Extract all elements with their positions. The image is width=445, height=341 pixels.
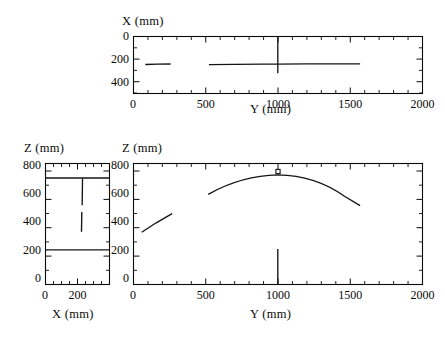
panel-left-xlabel: X (mm) [52, 307, 94, 322]
panel-left-xtick-200: 200 [69, 288, 87, 303]
panel-right-xtick-1000: 1000 [266, 288, 290, 303]
panel-top-ytick-400: 400 [111, 75, 129, 90]
panel-left-x-ticks [46, 164, 110, 285]
panel-top-ytick-200: 200 [111, 52, 129, 67]
panel-top-xtick-1000: 1000 [266, 97, 290, 112]
panel-right-z-vs-y: Z (mm) Y (mm) 0 200 400 600 800 0 500 10… [133, 163, 423, 285]
panel-left-ytick-0: 0 [35, 271, 41, 286]
panel-top-xtick-2000: 2000 [411, 97, 435, 112]
panel-top-data [145, 37, 360, 74]
panel-right-xtick-500: 500 [197, 288, 215, 303]
panel-right-xlabel: Y (mm) [250, 307, 291, 322]
panel-right-ytick-0: 0 [123, 271, 129, 286]
panel-left-plot-area [45, 163, 110, 285]
panel-left-y-ticks [46, 171, 110, 285]
panel-top-ylabel: X (mm) [122, 14, 164, 29]
three-panel-projection-figure: X (mm) Y (mm) 0 200 400 0 500 1000 1500 … [0, 0, 445, 341]
panel-right-xtick-2000: 2000 [411, 288, 435, 303]
panel-left-ytick-600: 600 [23, 186, 41, 201]
panel-right-ylabel: Z (mm) [122, 141, 162, 156]
open-square-marker [276, 169, 280, 173]
panel-top-x-vs-y: X (mm) Y (mm) 0 200 400 0 500 1000 1500 … [133, 36, 423, 94]
panel-right-ytick-600: 600 [111, 186, 129, 201]
panel-left-data [46, 178, 109, 250]
panel-right-ytick-200: 200 [111, 243, 129, 258]
panel-top-xtick-500: 500 [197, 97, 215, 112]
panel-top-xtick-1500: 1500 [338, 97, 362, 112]
panel-left-ytick-800: 800 [23, 158, 41, 173]
panel-top-ytick-0: 0 [123, 29, 129, 44]
panel-right-xtick-1500: 1500 [338, 288, 362, 303]
panel-left-xtick-0: 0 [42, 288, 48, 303]
panel-top-plot-area [133, 36, 423, 94]
panel-right-xtick-0: 0 [130, 288, 136, 303]
panel-left-z-vs-x: Z (mm) 0 200 400 600 800 0 200 X (mm) [45, 163, 110, 285]
panel-left-ytick-200: 200 [23, 243, 41, 258]
panel-left-ytick-400: 400 [23, 214, 41, 229]
panel-right-plot-area [133, 163, 423, 285]
panel-right-ytick-400: 400 [111, 214, 129, 229]
panel-left-frame [46, 164, 110, 285]
panel-right-data [142, 169, 360, 284]
panel-left-ylabel: Z (mm) [24, 141, 64, 156]
panel-right-ytick-800: 800 [111, 158, 129, 173]
panel-top-xtick-0: 0 [130, 97, 136, 112]
